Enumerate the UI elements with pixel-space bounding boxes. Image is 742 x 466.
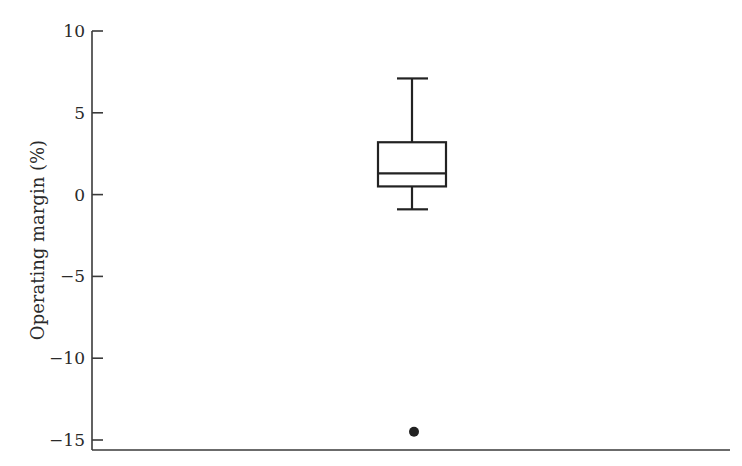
- y-axis-title: Operating margin (%): [27, 140, 48, 340]
- box-group: [378, 78, 446, 436]
- y-tick-label: −15: [49, 430, 85, 450]
- y-tick-label: −5: [60, 266, 85, 286]
- y-tick-label: 5: [74, 103, 85, 123]
- interquartile-box: [378, 142, 446, 186]
- y-axis: 1050−5−10−15: [49, 21, 103, 450]
- outlier-point: [409, 427, 419, 437]
- y-tick-label: −10: [49, 348, 85, 368]
- y-tick-label: 10: [63, 21, 85, 41]
- box-plot: 1050−5−10−15 Operating margin (%): [0, 0, 742, 466]
- box-series: [378, 78, 446, 436]
- y-tick-label: 0: [74, 185, 85, 205]
